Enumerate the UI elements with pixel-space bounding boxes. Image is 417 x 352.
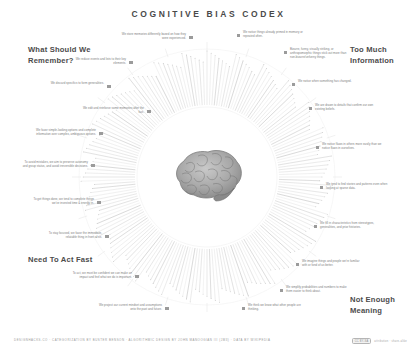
bias-ray-endpoint [324, 217, 325, 218]
bias-ray-endpoint [234, 293, 235, 294]
bias-ray-endpoint [147, 76, 148, 77]
bias-ray-endpoint [243, 60, 244, 61]
bias-ray-endpoint [320, 146, 321, 147]
bias-ray-endpoint [309, 120, 310, 121]
bias-ray-endpoint [203, 294, 204, 295]
bias-ray-endpoint [125, 92, 126, 93]
bias-ray-endpoint [279, 269, 280, 270]
bias-ray-endpoint [317, 154, 318, 155]
bias-ray-endpoint [155, 287, 156, 288]
bias-group-label: To stay focused, we favor the immediate,… [38, 232, 102, 240]
bias-group-label: We fill in characteristics from stereoty… [320, 222, 382, 230]
quadrant-heading-not-enough-meaning: Not Enough Meaning [350, 294, 414, 316]
bias-ray-endpoint [172, 65, 173, 66]
bias-ray-endpoint [269, 72, 270, 73]
quadrant-heading-too-much-information: Too Much Information [350, 44, 414, 66]
bias-group-bullet-icon [314, 225, 317, 228]
creative-commons-badge[interactable]: CC BY-SA [352, 338, 372, 344]
bias-ray-endpoint [256, 283, 257, 284]
bias-group-bullet-icon [91, 164, 94, 167]
bias-group-bullet-icon [316, 146, 319, 149]
bias-ray [126, 227, 155, 255]
bias-ray-endpoint [135, 280, 136, 281]
bias-ray-endpoint [199, 291, 200, 292]
brain-illustration [168, 146, 246, 208]
bias-ray [93, 142, 138, 156]
bias-ray [228, 246, 243, 295]
bias-group-label: To get things done, we tend to complete … [28, 198, 94, 206]
bias-ray-endpoint [179, 293, 180, 294]
bias-ray-endpoint [322, 177, 323, 178]
bias-ray-endpoint [324, 196, 325, 197]
bias-ray-endpoint [180, 67, 181, 68]
bias-ray [97, 212, 144, 238]
bias-group-label: We simplify probabilities and numbers to… [286, 286, 348, 294]
bias-ray-endpoint [293, 98, 294, 99]
bias-group-label-text: We notice flaws in others more easily th… [322, 142, 382, 150]
bias-ray-endpoint [113, 261, 114, 262]
bias-group-label-text: We imagine things and people we're famil… [302, 259, 359, 267]
bias-ray-endpoint [293, 266, 294, 267]
bias-ray [84, 152, 137, 163]
bias-ray-endpoint [251, 282, 252, 283]
bias-ray-endpoint [211, 298, 212, 299]
bias-group-label: We store memories differently based on h… [120, 33, 186, 41]
bias-ray-endpoint [303, 247, 304, 248]
bias-ray-endpoint [97, 223, 98, 224]
bias-label-connector [309, 251, 316, 256]
bias-group-bullet-icon [99, 132, 102, 135]
bias-ray [98, 201, 139, 215]
bias-ray-endpoint [324, 173, 325, 174]
bias-ray [85, 173, 135, 175]
quadrant-heading-need-to-act-fast: Need To Act Fast [28, 254, 108, 265]
bias-ray [170, 245, 183, 284]
bias-ray-endpoint [331, 156, 332, 157]
bias-ray [224, 54, 237, 107]
bias-ray-endpoint [163, 63, 164, 64]
bias-ray-endpoint [315, 241, 316, 242]
bias-ray-endpoint [146, 272, 147, 273]
bias-ray-endpoint [215, 55, 216, 56]
bias-ray-endpoint [322, 132, 323, 133]
bias-group-bullet-icon [129, 61, 132, 64]
bias-group-label: We favor simple-looking options and comp… [30, 129, 96, 137]
bias-ray-endpoint [288, 80, 289, 81]
bias-group-label: To avoid mistakes, we aim to preserve au… [22, 161, 88, 169]
bias-ray [199, 60, 202, 105]
bias-ray [276, 142, 321, 156]
bias-ray [268, 112, 310, 139]
bias-ray-endpoint [170, 283, 171, 284]
bias-ray-endpoint [219, 302, 220, 303]
bias-ray-endpoint [98, 214, 99, 215]
bias-ray-endpoint [275, 269, 276, 270]
bias-ray-endpoint [323, 127, 324, 128]
bias-ray-endpoint [158, 63, 159, 64]
bias-ray [259, 94, 293, 127]
bias-ray-endpoint [128, 263, 129, 264]
bias-ray-endpoint [309, 111, 310, 112]
bias-ray-endpoint [190, 56, 191, 57]
bias-group-label: We reduce events and lists to their key … [66, 58, 126, 66]
bias-ray-endpoint [215, 300, 216, 301]
bias-group-bullet-icon [280, 289, 283, 292]
bias-ray [100, 136, 140, 151]
bias-group-bullet-icon [97, 201, 100, 204]
bias-ray-endpoint [326, 169, 327, 170]
bias-ray-endpoint [265, 283, 266, 284]
bias-ray [226, 58, 240, 108]
bias-ray-endpoint [222, 288, 223, 289]
bias-ray [172, 65, 185, 108]
bias-ray-endpoint [219, 58, 220, 59]
bias-group-label-text: To stay focused, we favor the immediate,… [49, 231, 102, 239]
bias-group-label: We notice when something has changed. [298, 80, 356, 84]
bias-ray-endpoint [156, 76, 157, 77]
bias-group-label-text: We edit and reinforce some memories afte… [83, 106, 144, 114]
bias-ray [279, 179, 320, 180]
bias-group-bullet-icon [107, 85, 110, 88]
bias-ray-endpoint [284, 268, 285, 269]
bias-ray-endpoint [96, 121, 97, 122]
bias-ray-endpoint [110, 247, 111, 248]
bias-ray-endpoint [93, 161, 94, 162]
bias-ray-endpoint [110, 243, 111, 244]
bias-group-label-text: We tend to find stories and patterns eve… [326, 182, 387, 190]
